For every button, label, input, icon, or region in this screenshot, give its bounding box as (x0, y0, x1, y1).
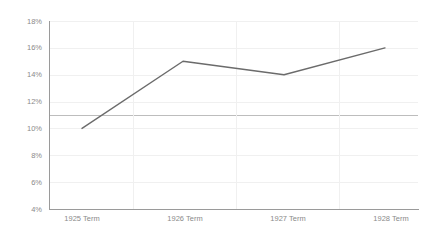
series-layer (0, 0, 434, 237)
line-chart: 18% 16% 14% 12% 10% 8% 6% 4% 1925 Term 1… (0, 0, 434, 237)
data-series-line (82, 48, 385, 129)
